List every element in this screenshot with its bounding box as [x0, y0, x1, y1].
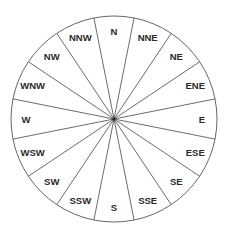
label-wsw: WSW: [21, 147, 45, 158]
label-se: SE: [170, 176, 183, 187]
label-sw: SW: [44, 176, 59, 187]
label-ne: NE: [170, 51, 183, 62]
compass-rose: N NNE NE ENE E ESE SE SSE S SSW SW WSW W…: [0, 0, 229, 234]
center-hub: [112, 117, 115, 120]
label-ene: ENE: [186, 80, 206, 91]
label-ese: ESE: [186, 147, 205, 158]
label-nnw: NNW: [69, 32, 92, 43]
label-ssw: SSW: [69, 195, 91, 206]
label-wnw: WNW: [20, 80, 45, 91]
label-nw: NW: [44, 51, 60, 62]
label-e: E: [199, 114, 205, 125]
label-sse: SSE: [138, 195, 157, 206]
label-s: S: [111, 202, 117, 213]
label-w: W: [22, 114, 31, 125]
label-n: N: [111, 26, 118, 37]
label-nne: NNE: [138, 32, 158, 43]
